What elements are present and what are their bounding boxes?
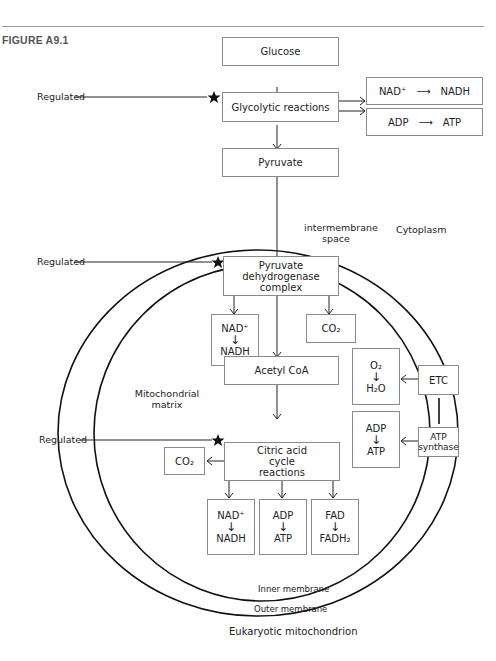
nad-nadh-glycolysis-box: NAD⁺ ⟶ NADH xyxy=(366,77,483,105)
right-arrow-icon: ⟶ xyxy=(416,86,430,97)
fadh2-text: FADH₂ xyxy=(320,533,351,544)
regulated-label-glycolysis: Regulated xyxy=(37,91,85,102)
down-arrow-icon: ↓ xyxy=(278,521,288,533)
citric-acid-cycle-box: Citric acid cycle reactions xyxy=(224,442,340,481)
citric-line3: reactions xyxy=(259,467,305,478)
intermembrane-line2: space xyxy=(304,233,368,244)
star-icon xyxy=(212,434,225,446)
pdh-line2: dehydrogenase xyxy=(242,271,319,282)
o2-text: O₂ xyxy=(370,360,382,371)
matrix-line2: matrix xyxy=(132,399,202,410)
pyruvate-dehydrogenase-box: Pyruvate dehydrogenase complex xyxy=(223,256,339,296)
star-icon xyxy=(208,91,221,103)
pyruvate-box: Pyruvate xyxy=(222,148,339,177)
nadh-text: NADH xyxy=(216,533,246,544)
matrix-line1: Mitochondrial xyxy=(132,388,202,399)
citric-fad-fadh2-box: FAD ↓ FADH₂ xyxy=(311,499,359,555)
adp-atp-glycolysis-box: ADP ⟶ ATP xyxy=(366,108,483,136)
inner-membrane-label: Inner membrane xyxy=(258,584,329,595)
citric-line1: Citric acid xyxy=(257,445,307,456)
down-arrow-icon: ↓ xyxy=(226,521,236,533)
adp-text: ADP xyxy=(366,423,387,434)
down-arrow-icon: ↓ xyxy=(230,334,240,346)
cytoplasm-label: Cytoplasm xyxy=(396,224,447,235)
outer-membrane-label: Outer membrane xyxy=(254,604,327,615)
atp-text: ATP xyxy=(367,446,385,457)
citric-adp-atp-box: ADP ↓ ATP xyxy=(259,499,307,555)
atp-synthase-box: ATP synthase xyxy=(418,427,459,457)
atp-text: ATP xyxy=(443,117,461,128)
glucose-box: Glucose xyxy=(222,37,339,66)
matrix-label: Mitochondrial matrix xyxy=(132,388,202,410)
down-arrow-icon: ↓ xyxy=(371,434,381,446)
caption: Eukaryotic mitochondrion xyxy=(229,626,357,637)
intermembrane-space-label: intermembrane space xyxy=(304,222,368,244)
down-arrow-icon: ↓ xyxy=(330,521,340,533)
regulated-star-icons xyxy=(208,91,225,446)
down-arrow-icon: ↓ xyxy=(371,371,381,383)
atp-synthase-adp-atp-box: ADP ↓ ATP xyxy=(352,411,400,468)
atp-text: ATP xyxy=(274,533,292,544)
regulated-label-citric: Regulated xyxy=(39,434,87,445)
nad-text: NAD⁺ xyxy=(379,86,406,97)
adp-text: ADP xyxy=(388,117,409,128)
atp-synthase-line1: ATP xyxy=(430,432,446,442)
atp-synthase-line2: synthase xyxy=(418,442,459,452)
etc-box: ETC xyxy=(418,365,459,395)
citric-line2: cycle xyxy=(269,456,295,467)
nadh-text: NADH xyxy=(441,86,471,97)
h2o-text: H₂O xyxy=(366,383,385,394)
intermembrane-line1: intermembrane xyxy=(304,222,368,233)
o2-h2o-box: O₂ ↓ H₂O xyxy=(352,348,400,405)
pdh-co2-box: CO₂ xyxy=(306,314,356,343)
citric-nad-nadh-box: NAD⁺ ↓ NADH xyxy=(207,499,255,555)
pdh-line1: Pyruvate xyxy=(259,260,304,271)
right-arrow-icon: ⟶ xyxy=(419,117,433,128)
acetyl-coa-box: Acetyl CoA xyxy=(224,356,339,385)
glycolytic-reactions-box: Glycolytic reactions xyxy=(222,92,339,122)
pdh-line3: complex xyxy=(260,282,302,293)
regulated-label-pdh: Regulated xyxy=(37,256,85,267)
citric-co2-box: CO₂ xyxy=(164,447,205,475)
